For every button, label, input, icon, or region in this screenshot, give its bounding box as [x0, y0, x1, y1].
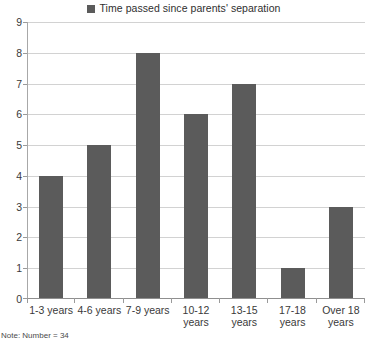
legend-item-label: Time passed since parents' separation: [100, 3, 281, 14]
bar-slot-4: [172, 22, 220, 299]
chart-note: Note: Number = 34: [1, 331, 69, 342]
x-tick-7: [317, 298, 365, 303]
x-tick-4: [172, 298, 220, 303]
y-axis-ticks: [27, 22, 28, 299]
y-tick-label-4: 4: [0, 171, 22, 182]
bar-slot-3: [124, 22, 172, 299]
plot-area: [27, 22, 365, 299]
bar-17-18-years[interactable]: [281, 268, 305, 299]
x-label-4-6-years: 4-6 years: [75, 305, 123, 328]
y-axis-line: [27, 22, 28, 299]
y-tick-2: [23, 237, 27, 238]
x-label-over-18-years: Over 18 years: [317, 305, 365, 328]
x-label-17-18-years: 17-18 years: [268, 305, 316, 328]
bar-13-15-years[interactable]: [232, 84, 256, 299]
x-tick-3: [124, 298, 172, 303]
bar-slot-2: [75, 22, 123, 299]
x-axis-ticks: [27, 298, 365, 303]
x-label-13-15-years: 13-15 years: [220, 305, 268, 328]
bar-chart: Time passed since parents' separation 9 …: [0, 0, 367, 342]
x-label-7-9-years: 7-9 years: [124, 305, 172, 328]
x-axis-labels: 1-3 years 4-6 years 7-9 years 10-12 year…: [27, 305, 365, 328]
chart-legend: Time passed since parents' separation: [0, 1, 367, 16]
y-tick-label-9: 9: [0, 17, 22, 28]
x-tick-6: [268, 298, 316, 303]
bar-slot-1: [27, 22, 75, 299]
bar-slot-6: [268, 22, 316, 299]
y-tick-9: [23, 22, 27, 23]
y-tick-label-1: 1: [0, 263, 22, 274]
bar-series: [27, 22, 365, 299]
x-label-10-12-years: 10-12 years: [172, 305, 220, 328]
legend-item-time-passed: Time passed since parents' separation: [87, 3, 281, 14]
y-tick-1: [23, 268, 27, 269]
x-tick-1: [27, 298, 75, 303]
bar-slot-7: [317, 22, 365, 299]
y-tick-6: [23, 114, 27, 115]
bar-1-3-years[interactable]: [39, 176, 63, 299]
y-axis-labels: 9 8 7 6 5 4 3 2 1 0: [0, 22, 22, 299]
y-tick-label-5: 5: [0, 140, 22, 151]
y-tick-7: [23, 84, 27, 85]
y-tick-label-7: 7: [0, 78, 22, 89]
x-tick-5: [220, 298, 268, 303]
bar-slot-5: [220, 22, 268, 299]
bar-10-12-years[interactable]: [184, 114, 208, 299]
legend-color-swatch-icon: [87, 5, 95, 13]
y-tick-8: [23, 53, 27, 54]
y-tick-4: [23, 176, 27, 177]
bar-7-9-years[interactable]: [136, 53, 160, 299]
y-tick-label-2: 2: [0, 232, 22, 243]
bar-4-6-years[interactable]: [87, 145, 111, 299]
y-tick-label-8: 8: [0, 48, 22, 59]
x-label-1-3-years: 1-3 years: [27, 305, 75, 328]
x-tick-2: [75, 298, 123, 303]
y-tick-3: [23, 207, 27, 208]
y-tick-label-6: 6: [0, 109, 22, 120]
y-tick-5: [23, 145, 27, 146]
bar-over-18-years[interactable]: [329, 207, 353, 299]
y-tick-label-3: 3: [0, 201, 22, 212]
y-tick-label-0: 0: [0, 294, 22, 305]
